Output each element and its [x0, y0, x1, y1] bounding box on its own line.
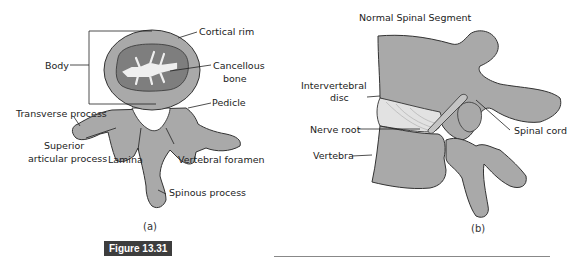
- label-nerve-root: Nerve root: [310, 124, 360, 135]
- figure-tag: Figure 13.31: [104, 241, 172, 256]
- label-intervertebral-line1: Intervertebral: [301, 80, 367, 91]
- label-intervertebral-line2: disc: [330, 92, 349, 103]
- panel-b-title: Normal Spinal Segment: [359, 12, 471, 23]
- label-cancellous-line1: Cancellous: [213, 60, 265, 71]
- label-cancellous-line2: bone: [223, 73, 247, 84]
- caption-b: (b): [471, 223, 485, 234]
- caption-a: (a): [143, 221, 157, 232]
- figure-rule: [274, 256, 550, 257]
- label-vertebral-foramen: Vertebral foramen: [178, 154, 265, 165]
- label-spinous-process: Spinous process: [169, 187, 246, 198]
- label-lamina: Lamina: [108, 154, 143, 165]
- label-spinal-cord: Spinal cord: [514, 125, 567, 136]
- label-pedicle: Pedicle: [212, 97, 246, 108]
- label-superior-line1: Superior: [44, 140, 84, 151]
- label-body: Body: [45, 60, 69, 71]
- diagram-canvas: [0, 0, 573, 267]
- label-cortical-rim: Cortical rim: [199, 26, 254, 37]
- lower-posterior: [446, 138, 526, 217]
- label-vertebra: Vertebra: [313, 150, 354, 161]
- lower-vertebra: [372, 126, 446, 189]
- label-transverse-process: Transverse process: [16, 108, 107, 119]
- label-superior-line2: articular process: [28, 153, 107, 164]
